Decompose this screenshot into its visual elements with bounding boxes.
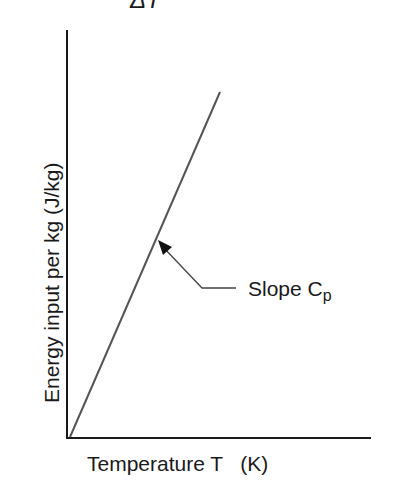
energy-line <box>70 92 220 437</box>
arrowhead-icon <box>158 240 172 255</box>
x-axis-label: Temperature T (K) <box>87 452 268 476</box>
leader-line <box>163 247 236 288</box>
delta-t-fragment: ΔT <box>130 0 161 14</box>
energy-temperature-diagram: ΔT Energy input per kg (J/kg) Temperatur… <box>0 0 420 483</box>
slope-annotation: Slope Cp <box>248 277 332 305</box>
y-axis-label: Energy input per kg (J/kg) <box>40 163 64 403</box>
slope-subscript: p <box>323 287 332 304</box>
slope-text: Slope C <box>248 277 323 300</box>
